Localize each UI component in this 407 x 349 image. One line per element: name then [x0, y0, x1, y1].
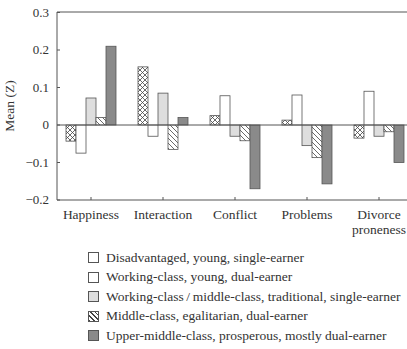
legend-item: Disadvantaged, young, single-earner — [88, 248, 400, 268]
y-tick-label: 0 — [43, 117, 50, 132]
legend: Disadvantaged, young, single-earnerWorki… — [88, 248, 400, 346]
bar — [106, 46, 116, 125]
light-gray-swatch-icon — [88, 291, 99, 302]
crosshatch-swatch-icon — [88, 252, 99, 263]
legend-label: Working-class / middle-class, traditiona… — [106, 289, 400, 305]
bar — [322, 125, 332, 184]
bar — [282, 120, 292, 125]
legend-label: Upper-middle-class, prosperous, mostly d… — [106, 328, 387, 344]
x-category-label: Problems — [281, 207, 332, 222]
legend-item: Working-class, young, dual-earner — [88, 268, 400, 288]
bar — [210, 116, 220, 125]
dark-gray-swatch-icon — [88, 330, 99, 341]
bar — [394, 125, 404, 163]
diagonal-hatch-swatch-icon — [88, 311, 99, 322]
white-swatch-icon — [88, 272, 99, 283]
bar — [158, 93, 168, 125]
bar — [76, 125, 86, 153]
legend-item: Middle-class, egalitarian, dual-earner — [88, 307, 400, 327]
x-category-label: Conflict — [213, 207, 257, 222]
x-category-label: Happiness — [63, 207, 119, 222]
x-category-label: Divorce — [357, 207, 400, 222]
legend-label: Middle-class, egalitarian, dual-earner — [106, 308, 308, 324]
axis-labels: 0.30.20.10−0.1−0.2Mean (Z)HappinessInter… — [2, 5, 406, 238]
legend-item: Upper-middle-class, prosperous, mostly d… — [88, 326, 400, 346]
bar — [168, 125, 178, 149]
bar — [354, 125, 364, 138]
x-category-label: Interaction — [134, 207, 193, 222]
bar — [178, 118, 188, 126]
bar — [96, 118, 106, 126]
y-tick-label: 0.1 — [33, 80, 49, 95]
bar — [302, 125, 312, 146]
legend-label: Disadvantaged, young, single-earner — [106, 250, 304, 266]
bar — [292, 95, 302, 125]
bar — [86, 98, 96, 125]
y-axis-label: Mean (Z) — [2, 80, 17, 131]
y-tick-label: 0.3 — [33, 5, 49, 20]
y-tick-label: 0.2 — [33, 42, 49, 57]
legend-label: Working-class, young, dual-earner — [106, 269, 292, 285]
bar — [220, 96, 230, 125]
bar — [138, 67, 148, 125]
bar — [312, 125, 322, 158]
bar — [384, 125, 394, 132]
y-tick-label: −0.1 — [25, 155, 49, 170]
bars — [57, 46, 407, 189]
bar — [374, 125, 384, 136]
legend-item: Working-class / middle-class, traditiona… — [88, 287, 400, 307]
bar — [148, 125, 158, 136]
bar — [230, 125, 240, 136]
bar — [66, 125, 76, 141]
x-category-label: proneness — [352, 222, 406, 237]
bar — [364, 91, 374, 125]
bar — [240, 125, 250, 141]
y-tick-label: −0.2 — [25, 192, 49, 207]
bar — [250, 125, 260, 189]
